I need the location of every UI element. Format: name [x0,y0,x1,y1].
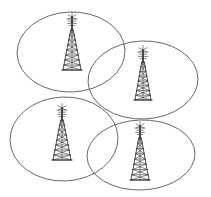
tower-brace [57,135,66,140]
tower-brace [56,145,69,150]
tower-brace [135,159,146,164]
tower-brace [66,50,77,55]
tower-brace [132,170,147,175]
tower-top-left [62,13,83,71]
coverage-ellipse-layer [9,10,200,192]
tower-brace [65,55,78,60]
tower-bottom-right [130,122,151,181]
tower-brace [137,86,149,91]
tower-bottom-left [52,104,73,161]
tower-top-right [134,46,153,101]
tower-brace [136,154,145,159]
tower-brace [139,76,147,81]
tower-brace [66,55,79,60]
tower-brace [55,145,68,150]
tower-brace [56,140,67,145]
tower-brace [133,164,146,169]
tower-brace [64,60,79,65]
diagram-canvas [0,0,211,197]
tower-brace [134,159,145,164]
tower-brace [138,86,150,91]
cell-bottom-left [9,95,120,183]
tower-brace [136,91,149,96]
tower-brace [65,60,80,65]
tower-brace [67,50,78,55]
tower-brace [58,135,67,140]
tower-brace [138,81,148,86]
tower-brace [57,140,68,145]
tower-brace [132,175,149,180]
tower-brace [138,81,148,86]
tower-layer [52,13,153,181]
coverage-cell [86,118,196,192]
tower-brace [67,45,76,50]
tower-brace [131,175,148,180]
tower-brace [68,45,77,50]
tower-brace [55,150,70,155]
tower-brace [138,76,146,81]
tower-brace [134,164,147,169]
coverage-cell [9,95,120,183]
tower-brace [133,170,148,175]
cell-bottom-right [86,118,196,192]
tower-brace [135,154,144,159]
tower-brace [54,150,69,155]
cell-coverage-diagram [0,0,211,197]
tower-brace [137,91,150,96]
